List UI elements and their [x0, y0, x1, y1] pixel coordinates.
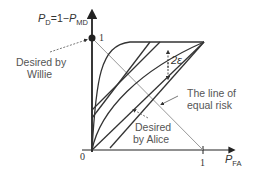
y-axis-label: PD=1−PMD	[38, 12, 88, 27]
epsilon-upper-line	[92, 42, 160, 110]
epsilon-label: 2ε	[170, 54, 182, 66]
willie-pointer	[50, 40, 86, 52]
origin-label: 0	[80, 151, 85, 162]
upper-parallel-line	[92, 42, 150, 118]
willie-annotation-line1: Desired by	[16, 56, 67, 68]
x-tick-label: 1	[200, 157, 205, 168]
alice-annotation-line1: Desired	[135, 121, 171, 133]
alice-annotation-line2: by Alice	[133, 133, 169, 145]
alice-pointer	[134, 110, 148, 118]
willie-point	[89, 35, 96, 42]
x-axis-label: PFA	[225, 153, 242, 168]
y-tick-label: 1	[99, 32, 104, 43]
willie-annotation-line2: Willie	[27, 68, 52, 80]
equal-risk-annotation-line2: equal risk	[187, 99, 233, 111]
diagram-canvas: 2ε PD=1−PMD 1 0 1 PFA Desired by Willie …	[0, 0, 255, 174]
roc-diagram: 2ε PD=1−PMD 1 0 1 PFA Desired by Willie …	[0, 0, 255, 174]
equal-risk-annotation-line1: The line of	[187, 87, 236, 99]
equal-risk-pointer	[162, 96, 178, 104]
